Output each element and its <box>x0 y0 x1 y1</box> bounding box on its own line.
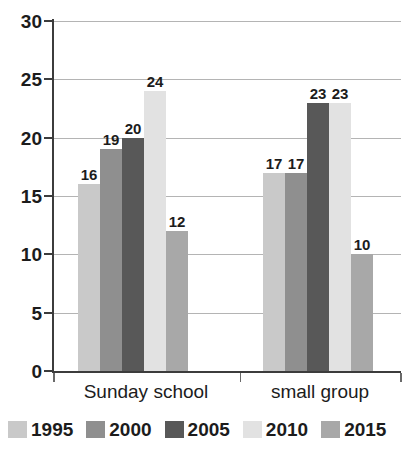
bar-2000-Sunday-school <box>100 149 122 371</box>
x-axis-label-small-group: small group <box>230 381 410 403</box>
legend-swatch-2000 <box>86 421 105 438</box>
y-tick-mark-25 <box>44 78 52 80</box>
bar-2015-small-group <box>351 254 373 371</box>
legend-label-2010: 2010 <box>266 420 308 439</box>
legend-item-2015[interactable]: 2015 <box>321 420 386 439</box>
legend-item-2010[interactable]: 2010 <box>243 420 308 439</box>
bar-value-label: 24 <box>138 74 172 89</box>
y-tick-mark-20 <box>44 137 52 139</box>
legend-item-2000[interactable]: 2000 <box>86 420 151 439</box>
y-tick-mark-5 <box>44 312 52 314</box>
y-tick-label-25: 25 <box>2 70 42 89</box>
y-tick-label-10: 10 <box>2 245 42 264</box>
chart-title-cropped <box>0 0 412 8</box>
y-tick-mark-0 <box>44 370 52 372</box>
bar-value-label: 23 <box>323 86 357 101</box>
y-tick-label-15: 15 <box>2 187 42 206</box>
bar-2005-Sunday-school <box>122 138 144 371</box>
bar-1995-small-group <box>263 173 285 371</box>
x-axis-label-Sunday-school: Sunday school <box>56 381 236 403</box>
bar-2000-small-group <box>285 173 307 371</box>
y-tick-label-30: 30 <box>2 12 42 31</box>
legend-label-2015: 2015 <box>344 420 386 439</box>
legend-swatch-2010 <box>243 421 262 438</box>
legend-label-2000: 2000 <box>109 420 151 439</box>
bars-layer: 16192024121717232310 <box>52 21 401 371</box>
x-axis-line <box>52 371 401 373</box>
chart-legend: 19952000200520102015 <box>8 417 408 441</box>
legend-item-2005[interactable]: 2005 <box>165 420 230 439</box>
legend-item-1995[interactable]: 1995 <box>8 420 73 439</box>
bar-2005-small-group <box>307 103 329 371</box>
x-axis-tick-0 <box>53 373 55 382</box>
y-tick-mark-30 <box>44 20 52 22</box>
y-tick-label-5: 5 <box>2 304 42 323</box>
legend-label-1995: 1995 <box>31 420 73 439</box>
bar-value-label: 12 <box>160 214 194 229</box>
bar-1995-Sunday-school <box>78 184 100 371</box>
legend-swatch-2005 <box>165 421 184 438</box>
legend-label-2005: 2005 <box>188 420 230 439</box>
y-tick-label-20: 20 <box>2 129 42 148</box>
bar-value-label: 10 <box>345 237 379 252</box>
y-tick-label-0: 0 <box>2 362 42 381</box>
y-tick-mark-10 <box>44 253 52 255</box>
y-tick-mark-15 <box>44 195 52 197</box>
bar-chart: 302520151050 16192024121717232310 Sunday… <box>0 0 412 449</box>
legend-swatch-1995 <box>8 421 27 438</box>
bar-2015-Sunday-school <box>166 231 188 371</box>
bar-2010-Sunday-school <box>144 91 166 371</box>
legend-swatch-2015 <box>321 421 340 438</box>
